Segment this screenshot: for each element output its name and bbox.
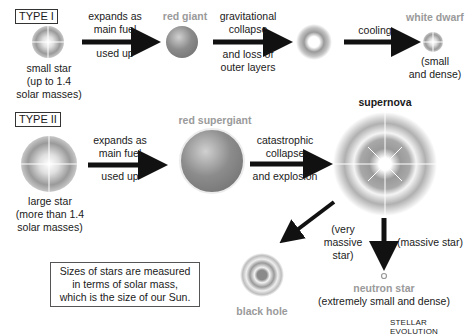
red-giant-label: red giant (155, 10, 215, 23)
neutron-star-label: neutron star (344, 282, 424, 295)
neutron-star-caption: (extremely small and dense) (314, 295, 454, 308)
solar-mass-note: Sizes of stars are measured in terms of … (50, 262, 200, 307)
type2-label: TYPE II (15, 112, 61, 127)
red-supergiant-label: red supergiant (165, 114, 265, 127)
supernova-icon (333, 112, 437, 216)
supernova-label: supernova (350, 96, 420, 109)
white-dwarf-label: white dwarf (400, 11, 470, 24)
small-star-icon (32, 26, 64, 58)
red-giant-icon (166, 26, 198, 58)
arrow2-top-label: gravitational collapse (208, 10, 288, 36)
type1-label: TYPE I (15, 9, 58, 24)
diagram-title: STELLAR EVOLUTION (390, 318, 474, 336)
red-supergiant-icon (180, 129, 244, 193)
type2-arrow2-top-label: catastrophic collapse (245, 134, 325, 160)
type2-arrow1-top-label: expands as main fuel (85, 134, 155, 160)
black-hole-icon (240, 253, 284, 297)
arrow1-bottom-label: used up (80, 47, 150, 60)
small-star-caption: small star (up to 1.4 solar masses) (14, 62, 84, 101)
arrow1-top-label: expands as main fuel (80, 10, 150, 36)
type2-arrow2-bottom-label: and explosion (245, 170, 325, 183)
large-star-icon (21, 136, 77, 192)
white-dwarf-icon (423, 32, 443, 52)
black-hole-label: black hole (224, 305, 300, 318)
arrow2-bottom-label: and loss of outer layers (208, 48, 288, 74)
neutron-star-icon (382, 274, 387, 279)
type2-arrow1-bottom-label: used up (85, 170, 155, 183)
cooling-label: cooling (350, 24, 400, 37)
white-dwarf-caption: (small and dense) (405, 55, 465, 81)
large-star-caption: large star (more than 1.4 solar masses) (10, 195, 90, 234)
massive-star-label: (massive star) (390, 236, 470, 249)
very-massive-star-label: (very massive star) (318, 223, 368, 262)
planetary-nebula-icon (296, 24, 332, 60)
